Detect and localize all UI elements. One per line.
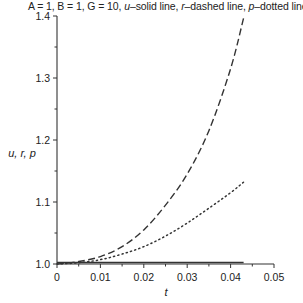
y-tick-label: 1.3 [35, 72, 50, 84]
y-axis-label: u, r, p [8, 147, 36, 159]
series-group [57, 18, 244, 264]
y-tick-label: 1.2 [35, 134, 50, 146]
axes: 00.010.020.030.040.051.01.11.21.31.4 [35, 10, 284, 283]
x-tick-label: 0.03 [177, 271, 198, 283]
x-axis-label: t [164, 286, 168, 298]
y-tick-label: 1.4 [35, 10, 50, 22]
series-r-line [57, 18, 244, 264]
x-tick-label: 0.01 [90, 271, 111, 283]
line-chart: 00.010.020.030.040.051.01.11.21.31.4 t u… [0, 0, 303, 303]
y-tick-label: 1.1 [35, 196, 50, 208]
x-tick-label: 0 [54, 271, 60, 283]
x-tick-label: 0.05 [264, 271, 285, 283]
x-tick-label: 0.02 [134, 271, 155, 283]
x-tick-label: 0.04 [220, 271, 241, 283]
y-tick-label: 1.0 [35, 258, 50, 270]
